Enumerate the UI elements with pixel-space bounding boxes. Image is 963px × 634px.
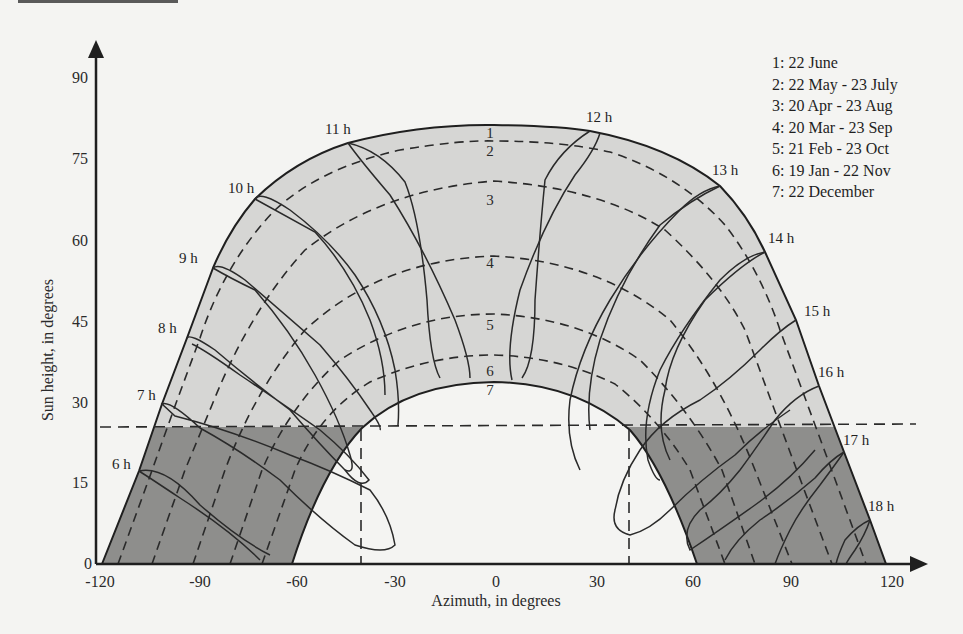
y-axis: [88, 40, 104, 564]
svg-text:90: 90: [72, 69, 88, 86]
svg-text:6 h: 6 h: [112, 456, 131, 472]
svg-text:0: 0: [84, 555, 92, 572]
svg-text:45: 45: [72, 313, 88, 330]
legend-item: 4: 20 Mar - 23 Sep: [772, 117, 898, 139]
svg-text:60: 60: [685, 573, 701, 590]
legend-item: 2: 22 May - 23 July: [772, 74, 898, 96]
svg-text:12 h: 12 h: [586, 109, 613, 125]
legend-item: 5: 21 Feb - 23 Oct: [772, 138, 898, 160]
svg-text:18 h: 18 h: [868, 498, 895, 514]
legend-item: 7: 22 December: [772, 181, 898, 203]
svg-text:13 h: 13 h: [712, 162, 739, 178]
legend: 1: 22 June 2: 22 May - 23 July 3: 20 Apr…: [772, 52, 898, 203]
svg-text:-90: -90: [189, 573, 210, 590]
svg-text:7 h: 7 h: [137, 387, 156, 403]
svg-text:15 h: 15 h: [804, 303, 831, 319]
svg-text:16 h: 16 h: [818, 364, 845, 380]
svg-text:5: 5: [486, 317, 494, 333]
x-tick-labels: -120 -90 -60 -30 0 30 60 90 120: [85, 573, 904, 590]
svg-text:15: 15: [72, 474, 88, 491]
svg-text:-60: -60: [286, 573, 307, 590]
svg-text:7: 7: [486, 382, 494, 398]
y-tick-labels: 90 75 60 45 30 15 0: [72, 69, 92, 572]
svg-text:11 h: 11 h: [325, 121, 351, 137]
svg-text:90: 90: [783, 573, 799, 590]
svg-text:3: 3: [486, 192, 494, 208]
svg-text:10 h: 10 h: [228, 180, 255, 196]
svg-text:6: 6: [486, 363, 494, 379]
legend-item: 1: 22 June: [772, 52, 898, 74]
svg-text:9 h: 9 h: [179, 250, 198, 266]
y-axis-title: Sun height, in degrees: [39, 279, 57, 421]
svg-text:14 h: 14 h: [768, 230, 795, 246]
svg-text:30: 30: [589, 573, 605, 590]
svg-text:30: 30: [72, 394, 88, 411]
svg-text:4: 4: [486, 255, 494, 271]
x-axis-title: Azimuth, in degrees: [431, 592, 560, 610]
svg-text:17 h: 17 h: [843, 432, 870, 448]
svg-text:1: 1: [486, 125, 494, 141]
y-axis-arrow-icon: [88, 40, 104, 58]
svg-text:-120: -120: [85, 573, 114, 590]
svg-text:8 h: 8 h: [158, 320, 177, 336]
svg-text:120: 120: [880, 573, 904, 590]
legend-item: 6: 19 Jan - 22 Nov: [772, 160, 898, 182]
x-axis-arrow-icon: [910, 556, 928, 572]
svg-text:2: 2: [486, 143, 494, 159]
svg-text:-30: -30: [384, 573, 405, 590]
svg-text:60: 60: [72, 232, 88, 249]
svg-text:75: 75: [72, 150, 88, 167]
svg-text:0: 0: [492, 573, 500, 590]
legend-item: 3: 20 Apr - 23 Aug: [772, 95, 898, 117]
